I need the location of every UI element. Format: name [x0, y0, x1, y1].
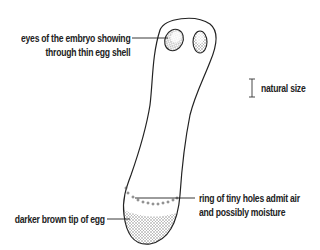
ring-of-holes: [125, 187, 178, 205]
darker-tip-text: darker brown tip of egg: [15, 213, 105, 225]
eyes-label-line2: through thin egg shell: [21, 45, 130, 59]
eyes-label: eyes of the embryo showing through thin …: [21, 31, 130, 59]
darker-tip-label: darker brown tip of egg: [15, 212, 105, 226]
natural-size-scale-bar: [249, 79, 255, 97]
ring-label-line1: ring of tiny holes admit air: [199, 191, 300, 205]
ring-label-line2: and possibly moisture: [199, 205, 300, 219]
natural-size-text: natural size: [261, 82, 305, 94]
natural-size-label: natural size: [261, 81, 305, 95]
embryo-eyes: [161, 26, 207, 54]
eyes-label-line1: eyes of the embryo showing: [21, 31, 130, 45]
ring-of-holes-label: ring of tiny holes admit air and possibl…: [199, 191, 300, 219]
